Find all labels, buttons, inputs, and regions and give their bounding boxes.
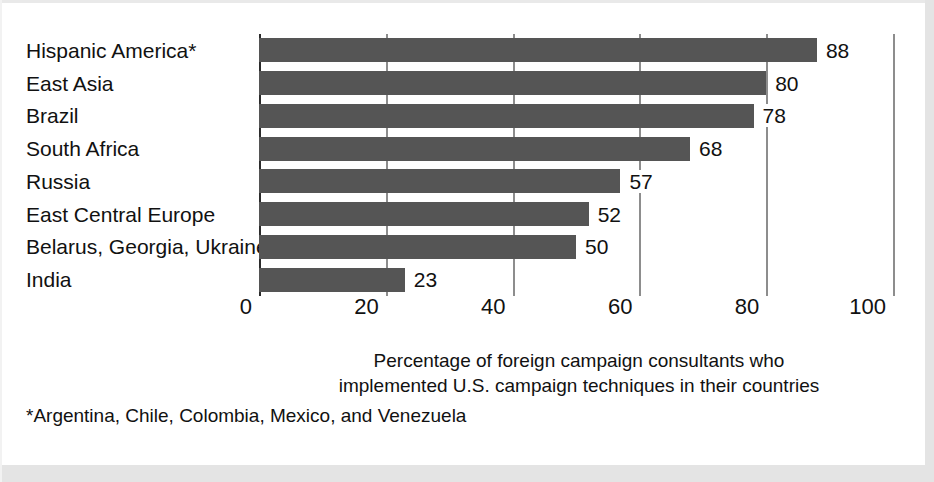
bar: [259, 71, 766, 95]
category-label: East Central Europe: [26, 198, 254, 231]
x-axis: 020406080100: [259, 296, 919, 326]
caption-line-1: Percentage of foreign campaign consultan…: [259, 348, 899, 373]
gridline-100: [893, 34, 895, 296]
chart-footnote: *Argentina, Chile, Colombia, Mexico, and…: [26, 405, 466, 428]
bar: [259, 169, 620, 193]
bar-value-label: 52: [596, 203, 623, 226]
bar-row: 57: [259, 165, 893, 198]
category-label: Hispanic America*: [26, 34, 254, 67]
bar-row: 23: [259, 263, 893, 296]
bar-value-label: 23: [412, 268, 439, 291]
page-edge-bottom: [0, 465, 934, 482]
category-label: India: [26, 263, 254, 296]
bar-row: 88: [259, 34, 893, 67]
bar: [259, 202, 589, 226]
category-axis-labels: Hispanic America*East AsiaBrazilSouth Af…: [26, 34, 254, 296]
x-tick-label-60: 60: [608, 296, 639, 318]
category-label: Belarus, Georgia, Ukraine: [26, 231, 254, 264]
page-edge-top: [0, 0, 934, 3]
bar: [259, 268, 405, 292]
caption-line-2: implemented U.S. campaign techniques in …: [259, 373, 899, 398]
x-tick-label-100: 100: [849, 296, 893, 318]
page-edge-right: [925, 0, 934, 482]
bar-value-label: 88: [824, 39, 851, 62]
bar: [259, 235, 576, 259]
category-label: South Africa: [26, 132, 254, 165]
bar-value-label: 57: [627, 170, 654, 193]
bar-row: 80: [259, 67, 893, 100]
bar-row: 78: [259, 100, 893, 133]
bar-row: 68: [259, 132, 893, 165]
category-label: Russia: [26, 165, 254, 198]
plot-area: 8880786857525023: [259, 34, 893, 296]
bar-row: 50: [259, 231, 893, 264]
bar-value-label: 78: [761, 104, 788, 127]
x-tick-label-40: 40: [481, 296, 512, 318]
bar-row: 52: [259, 198, 893, 231]
bar-value-label: 68: [697, 137, 724, 160]
bar-value-label: 80: [773, 72, 800, 95]
bar-value-label: 50: [583, 235, 610, 258]
bar: [259, 38, 817, 62]
category-label: Brazil: [26, 100, 254, 133]
bar-chart-figure: Hispanic America*East AsiaBrazilSouth Af…: [0, 0, 934, 482]
x-tick-label-80: 80: [735, 296, 766, 318]
page-edge-left: [0, 0, 2, 482]
category-label: East Asia: [26, 67, 254, 100]
chart-caption: Percentage of foreign campaign consultan…: [259, 348, 899, 398]
bar: [259, 104, 754, 128]
bar: [259, 137, 690, 161]
x-tick-label-20: 20: [354, 296, 385, 318]
x-tick-label-0: 0: [240, 296, 259, 318]
bar-series: 8880786857525023: [259, 34, 893, 296]
